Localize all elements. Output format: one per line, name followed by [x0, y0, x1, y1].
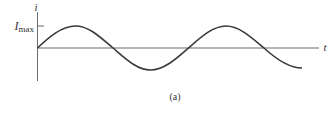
figure-caption: (a) [169, 91, 180, 103]
imax-label: Imax [14, 19, 35, 34]
y-axis-label: i [34, 1, 37, 13]
sine-current-diagram: i Imax t (a) [0, 0, 332, 119]
x-axis-label: t [323, 41, 327, 53]
